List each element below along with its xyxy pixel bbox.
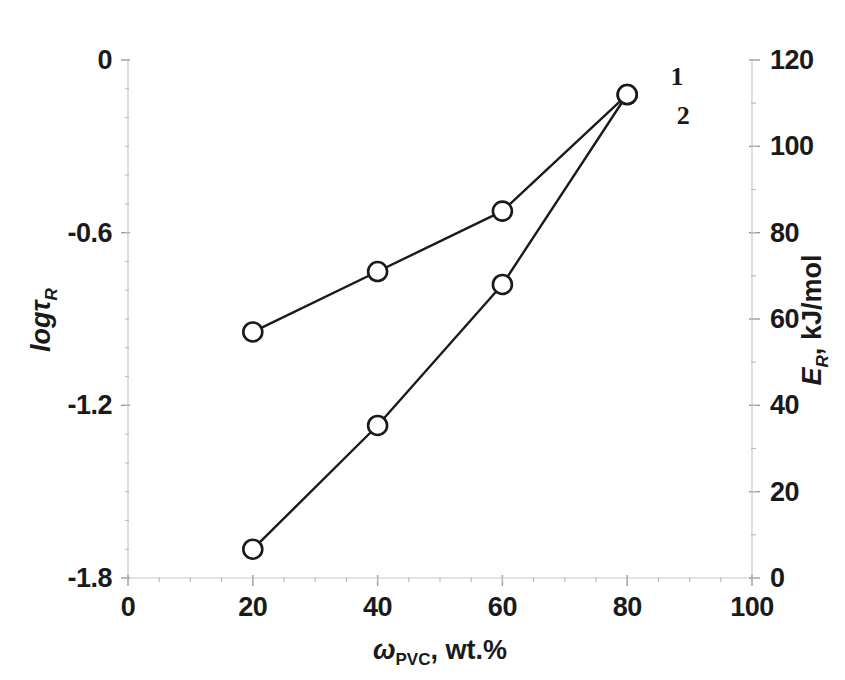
data-point-marker — [243, 540, 262, 559]
y-axis-right-title-subscript: R — [813, 355, 832, 367]
data-point-marker — [618, 85, 637, 104]
y-axis-right-title-main: E — [797, 367, 827, 385]
x-axis-tick-label: 20 — [238, 592, 267, 623]
series-group — [243, 85, 636, 559]
y-axis-right-title-rest: , kJ/mol — [797, 255, 827, 356]
series-label-2: 2 — [677, 101, 690, 131]
x-axis-title: ωPVC, wt.% — [373, 635, 507, 670]
y-axis-left-tick-label: -1.8 — [67, 563, 112, 594]
x-axis-title-subscript: PVC — [396, 650, 431, 669]
y-axis-left-tick-label: -1.2 — [67, 390, 112, 421]
x-axis-tick-label: 60 — [488, 592, 517, 623]
chart-figure: 0-0.6-1.2-1.8 020406080100120 0204060801… — [0, 0, 845, 680]
y-axis-right-title: ER, kJ/mol — [797, 255, 832, 386]
data-point-marker — [493, 202, 512, 221]
y-axis-right-tick-label: 40 — [770, 390, 799, 421]
data-point-marker — [368, 262, 387, 281]
data-point-marker — [243, 322, 262, 341]
x-axis-tick-label: 80 — [613, 592, 642, 623]
y-axis-right-tick-label: 60 — [770, 304, 799, 335]
y-axis-right-tick-label: 120 — [770, 45, 814, 76]
y-axis-left-title-subscript: R — [42, 288, 61, 300]
x-axis-title-rest: , wt.% — [430, 635, 507, 665]
data-point-marker — [493, 275, 512, 294]
x-axis-title-symbol: ω — [373, 635, 396, 665]
y-axis-right-tick-label: 0 — [770, 563, 785, 594]
axes-group — [121, 60, 760, 586]
x-axis-tick-label: 100 — [730, 592, 774, 623]
series-label-1: 1 — [671, 62, 684, 92]
y-axis-left-title-main: logτ — [26, 300, 56, 352]
series-line-1 — [253, 95, 627, 332]
y-axis-left-tick-label: -0.6 — [67, 217, 112, 248]
x-axis-tick-label: 0 — [121, 592, 136, 623]
y-axis-right-tick-label: 100 — [770, 131, 814, 162]
series-line-2 — [253, 95, 627, 550]
y-axis-right-tick-label: 80 — [770, 217, 799, 248]
data-point-marker — [368, 416, 387, 435]
y-axis-right-tick-label: 20 — [770, 476, 799, 507]
chart-plot-area — [0, 0, 845, 680]
y-axis-left-tick-label: 0 — [97, 45, 112, 76]
x-axis-tick-label: 40 — [363, 592, 392, 623]
y-axis-left-title: logτR — [26, 288, 61, 352]
